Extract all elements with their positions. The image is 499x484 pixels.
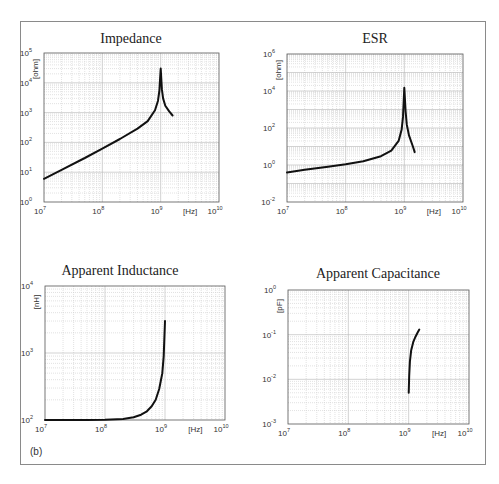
esr-chart: ESR107108109101010-2100102104106[Hz][ohm… — [261, 31, 466, 216]
grid — [44, 53, 219, 202]
chart-title: ESR — [362, 31, 388, 46]
apparent-inductance-chart: Apparent Inductance107108109101010210310… — [21, 263, 228, 434]
chart-title: Apparent Capacitance — [316, 266, 440, 281]
y-tick-label: 101 — [20, 166, 32, 177]
x-tick-label: 1010 — [207, 205, 222, 216]
y-tick-label: 103 — [21, 347, 33, 358]
impedance-chart: Impedance1071081091010100101102103104105… — [20, 31, 222, 216]
x-tick-label: 107 — [35, 423, 47, 434]
x-tick-label: 109 — [155, 423, 167, 434]
plot-area — [288, 290, 469, 424]
x-tick-label: 1010 — [451, 205, 466, 216]
x-axis-label: [Hz] — [427, 207, 441, 216]
x-tick-label: 108 — [92, 205, 104, 216]
plot-area — [44, 53, 219, 202]
x-tick-label: 107 — [277, 205, 289, 216]
x-tick-label: 1010 — [457, 427, 472, 438]
y-axis-label: [pF] — [275, 299, 284, 313]
apparent-capacitance-chart: Apparent Capacitance107108109101010-310-… — [262, 266, 472, 438]
panel-label: (b) — [30, 446, 42, 457]
data-series-line — [44, 69, 173, 179]
chart-title: Impedance — [100, 31, 161, 46]
grid — [45, 286, 225, 420]
y-tick-label: 106 — [263, 48, 275, 59]
y-tick-label: 10-3 — [262, 418, 276, 429]
y-tick-label: 102 — [20, 136, 32, 147]
x-tick-label: 108 — [338, 427, 350, 438]
grid — [288, 290, 469, 424]
x-tick-label: 109 — [399, 427, 411, 438]
y-axis-label: [ohm] — [31, 59, 40, 79]
x-tick-label: 1010 — [213, 423, 228, 434]
y-tick-label: 102 — [263, 122, 275, 133]
x-axis-label: [Hz] — [183, 207, 197, 216]
charts-canvas: Impedance1071081091010100101102103104105… — [0, 0, 499, 484]
y-tick-label: 10-2 — [261, 196, 275, 207]
chart-title: Apparent Inductance — [62, 263, 179, 278]
y-tick-label: 100 — [264, 284, 276, 295]
y-tick-label: 100 — [20, 196, 32, 207]
x-tick-label: 107 — [34, 205, 46, 216]
y-tick-label: 103 — [20, 107, 32, 118]
x-tick-label: 108 — [336, 205, 348, 216]
y-tick-label: 105 — [20, 47, 32, 58]
y-tick-label: 104 — [21, 280, 33, 291]
y-axis-label: [ohm] — [274, 60, 283, 80]
y-axis-label: [nH] — [32, 295, 41, 310]
x-tick-label: 109 — [151, 205, 163, 216]
x-tick-label: 109 — [394, 205, 406, 216]
x-axis-label: [Hz] — [432, 429, 446, 438]
y-tick-label: 102 — [21, 414, 33, 425]
grid — [287, 54, 463, 202]
x-tick-label: 107 — [278, 427, 290, 438]
y-tick-label: 100 — [263, 159, 275, 170]
y-tick-label: 10-1 — [262, 329, 276, 340]
x-axis-label: [Hz] — [188, 425, 202, 434]
y-tick-label: 10-2 — [262, 373, 276, 384]
x-tick-label: 108 — [95, 423, 107, 434]
y-tick-label: 104 — [263, 85, 275, 96]
